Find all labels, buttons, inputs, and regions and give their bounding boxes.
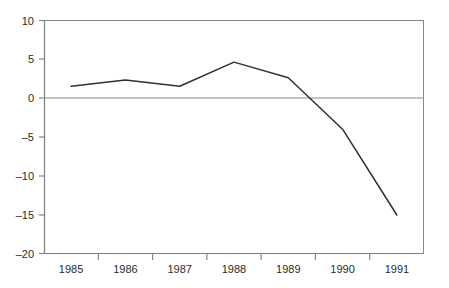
x-axis-label-1987: 1987 bbox=[167, 263, 191, 275]
x-axis-label-1989: 1989 bbox=[276, 263, 300, 275]
x-axis-label-1988: 1988 bbox=[222, 263, 246, 275]
chart-container: 10 5 0 –5 –10 –15 –20 1985 1986 1987 198… bbox=[0, 0, 449, 288]
x-axis-label-1990: 1990 bbox=[330, 263, 354, 275]
y-axis-label-5: 5 bbox=[28, 53, 34, 65]
y-axis-label-0: 0 bbox=[28, 92, 34, 104]
y-axis-label-minus20: –20 bbox=[16, 248, 34, 260]
x-axis-label-1991: 1991 bbox=[385, 263, 409, 275]
y-axis-label-minus10: –10 bbox=[16, 170, 34, 182]
x-tick-marks bbox=[98, 254, 369, 260]
plot-area-background bbox=[44, 20, 424, 254]
y-tick-marks bbox=[39, 21, 44, 254]
x-axis-label-1985: 1985 bbox=[59, 263, 83, 275]
y-axis-label-minus5: –5 bbox=[22, 131, 34, 143]
line-chart: 10 5 0 –5 –10 –15 –20 1985 1986 1987 198… bbox=[0, 0, 449, 288]
y-axis-label-minus15: –15 bbox=[16, 209, 34, 221]
y-axis-label-10: 10 bbox=[22, 15, 34, 27]
x-axis-label-1986: 1986 bbox=[113, 263, 137, 275]
